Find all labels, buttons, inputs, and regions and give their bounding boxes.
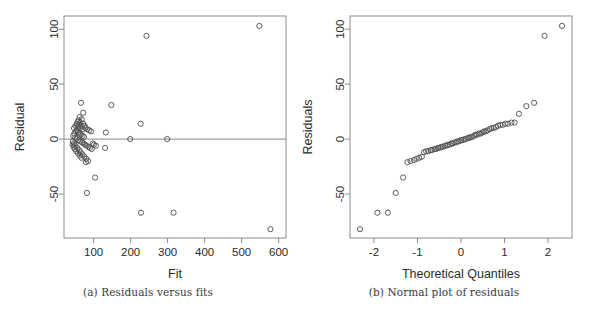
data-point xyxy=(357,227,362,232)
x-tick-label: 400 xyxy=(195,246,214,258)
data-point xyxy=(516,111,521,116)
y-tick-label: -50 xyxy=(334,186,346,203)
data-point xyxy=(109,102,114,107)
y-tick-label: 50 xyxy=(334,78,346,91)
y-axis-title: Residuals xyxy=(301,100,315,155)
data-point xyxy=(78,100,83,105)
y-tick-label: 0 xyxy=(334,136,346,142)
data-point xyxy=(532,100,537,105)
data-point xyxy=(257,23,262,28)
x-tick-label: 500 xyxy=(232,246,251,258)
data-point xyxy=(405,160,410,165)
x-tick-label: 2 xyxy=(545,246,551,258)
panel-normal-plot-of-residuals: -2-1012-50050100Theoretical QuantilesRes… xyxy=(296,0,592,320)
data-point xyxy=(171,210,176,215)
data-point xyxy=(401,175,406,180)
data-point xyxy=(138,210,143,215)
x-tick-label: 1 xyxy=(501,246,507,258)
data-point xyxy=(524,104,529,109)
x-tick-label: 300 xyxy=(158,246,177,258)
panel-residuals-vs-fits: 100200300400500600-50050100FitResidual (… xyxy=(0,0,296,320)
figure-residual-diagnostics: 100200300400500600-50050100FitResidual (… xyxy=(0,0,593,320)
x-axis-title: Fit xyxy=(168,267,182,281)
y-axis-title: Residual xyxy=(13,103,27,152)
data-point xyxy=(512,120,517,125)
x-tick-label: 0 xyxy=(458,246,464,258)
caption-panel-b: (b) Normal plot of residuals xyxy=(296,286,592,298)
data-point xyxy=(268,227,273,232)
data-point xyxy=(84,190,89,195)
data-point xyxy=(103,130,108,135)
data-point xyxy=(542,33,547,38)
x-axis-title: Theoretical Quantiles xyxy=(402,267,520,281)
y-tick-label: 0 xyxy=(48,136,60,142)
data-point xyxy=(559,23,564,28)
data-point xyxy=(385,210,390,215)
data-point xyxy=(375,210,380,215)
x-tick-label: 100 xyxy=(84,246,103,258)
plot-normal-plot-of-residuals: -2-1012-50050100Theoretical QuantilesRes… xyxy=(296,0,593,286)
data-point xyxy=(92,175,97,180)
data-point xyxy=(102,145,107,150)
data-point xyxy=(408,158,413,163)
data-point xyxy=(393,190,398,195)
y-tick-label: 50 xyxy=(48,78,60,91)
data-point xyxy=(138,121,143,126)
x-tick-label: 600 xyxy=(269,246,288,258)
x-tick-label: 200 xyxy=(121,246,140,258)
x-tick-label: -2 xyxy=(369,246,379,258)
data-point xyxy=(81,110,86,115)
y-tick-label: 100 xyxy=(334,20,346,39)
plot-residuals-vs-fits: 100200300400500600-50050100FitResidual xyxy=(0,0,296,286)
y-tick-label: -50 xyxy=(48,186,60,203)
data-point xyxy=(144,33,149,38)
y-tick-label: 100 xyxy=(48,20,60,39)
x-tick-label: -1 xyxy=(412,246,422,258)
caption-panel-a: (a) Residuals versus fits xyxy=(0,286,296,298)
